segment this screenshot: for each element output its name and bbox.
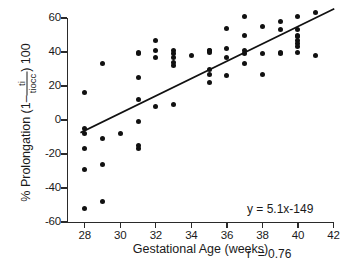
data-point (207, 67, 212, 72)
data-point (82, 90, 87, 95)
data-point (136, 51, 141, 56)
fraction-numerator: ti (16, 72, 26, 96)
x-tick-36 (226, 222, 227, 228)
data-point (224, 26, 229, 31)
y-axis-label-prefix: % Prolongation (1 (19, 102, 33, 201)
data-point (171, 55, 176, 60)
y-axis-line (67, 18, 68, 223)
data-point (242, 14, 247, 19)
data-point (100, 199, 105, 204)
fit-equation-text: y = 5.1x-149 (247, 202, 313, 217)
x-tick-label-36: 36 (214, 230, 240, 242)
data-point (171, 63, 176, 68)
y-axis-label-suffix: ) 100 (19, 43, 33, 72)
data-point (313, 10, 318, 15)
data-point (136, 146, 141, 151)
data-point (136, 97, 141, 102)
fraction-denominator: tiocc (26, 72, 37, 96)
data-point (278, 51, 283, 56)
y-tick-0 (61, 119, 67, 120)
data-point (242, 51, 247, 56)
data-point (207, 50, 212, 55)
data-point (153, 104, 158, 109)
data-point (295, 44, 300, 49)
data-point (278, 19, 283, 24)
x-tick-label-32: 32 (143, 230, 169, 242)
data-point (242, 61, 247, 66)
y-axis-label: % Prolongation (1–titiocc) 100 (17, 8, 38, 238)
data-point (224, 73, 229, 78)
data-point (136, 119, 141, 124)
x-tick-label-34: 34 (178, 230, 204, 242)
y-tick--40 (61, 187, 67, 188)
data-point (100, 162, 105, 167)
data-point (118, 131, 123, 136)
x-tick-32 (155, 222, 156, 228)
y-tick-20 (61, 85, 67, 86)
data-point (260, 72, 265, 77)
data-point (82, 146, 87, 151)
y-axis-label-fraction: titiocc (16, 72, 37, 96)
data-point (153, 38, 158, 43)
data-point (207, 80, 212, 85)
correlation-text: r = 0.76 (247, 247, 313, 262)
data-point (153, 55, 158, 60)
x-tick-30 (120, 222, 121, 228)
x-tick-label-30: 30 (107, 230, 133, 242)
data-point (82, 131, 87, 136)
y-tick-40 (61, 51, 67, 52)
data-point (224, 46, 229, 51)
data-point (82, 167, 87, 172)
data-point (189, 53, 194, 58)
data-point (313, 53, 318, 58)
y-tick-60 (61, 17, 67, 18)
x-tick-label-42: 42 (321, 230, 346, 242)
fit-annotation: y = 5.1x-149 r = 0.76 (247, 172, 313, 263)
data-point (136, 75, 141, 80)
x-tick-42 (333, 222, 334, 228)
x-tick-label-28: 28 (72, 230, 98, 242)
y-axis-label-minus: – (19, 95, 33, 102)
data-point (242, 33, 247, 38)
data-point (207, 72, 212, 77)
data-point (153, 48, 158, 53)
x-tick-28 (84, 222, 85, 228)
data-point (278, 27, 283, 32)
data-point (295, 27, 300, 32)
data-point (100, 61, 105, 66)
data-point (260, 24, 265, 29)
scatter-plot-figure: 6040200-20-40-60 2830323436384042 % Prol… (0, 0, 346, 263)
data-point (260, 51, 265, 56)
data-point (171, 102, 176, 107)
data-point (224, 55, 229, 60)
data-point (100, 136, 105, 141)
x-tick-34 (191, 222, 192, 228)
data-point (295, 50, 300, 55)
y-tick--60 (61, 221, 67, 222)
y-tick--20 (61, 153, 67, 154)
data-point (295, 14, 300, 19)
data-point (82, 206, 87, 211)
